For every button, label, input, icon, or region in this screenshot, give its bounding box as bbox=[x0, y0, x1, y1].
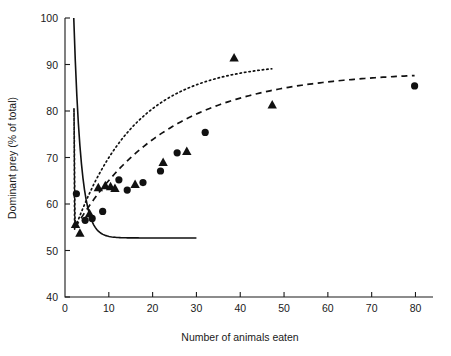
x-tick-label-10: 10 bbox=[103, 302, 115, 314]
data-point-triangle-11 bbox=[268, 100, 277, 109]
curves-group bbox=[74, 18, 415, 238]
y-tick-label-90: 90 bbox=[46, 59, 58, 71]
data-points-circles bbox=[73, 82, 418, 224]
x-axis-tick-labels: 01020304050607080 bbox=[62, 302, 421, 314]
x-tick-label-50: 50 bbox=[278, 302, 290, 314]
x-tick-label-60: 60 bbox=[322, 302, 334, 314]
x-axis-ticks bbox=[109, 292, 416, 297]
x-tick-label-40: 40 bbox=[234, 302, 246, 314]
y-tick-label-50: 50 bbox=[46, 245, 58, 257]
data-point-triangle-9 bbox=[182, 146, 191, 155]
data-point-circle-7 bbox=[157, 167, 164, 174]
x-axis-title: Number of animals eaten bbox=[181, 331, 298, 343]
y-tick-label-40: 40 bbox=[46, 291, 58, 303]
y-axis-title: Dominant prey (% of total) bbox=[6, 97, 18, 219]
axis-lines bbox=[65, 18, 433, 297]
data-point-triangle-1 bbox=[75, 228, 84, 237]
y-axis-tick-labels: 405060708090100 bbox=[40, 12, 58, 303]
data-point-triangle-10 bbox=[229, 53, 238, 62]
x-tick-label-80: 80 bbox=[410, 302, 422, 314]
solid-curve bbox=[74, 18, 197, 238]
x-tick-label-30: 30 bbox=[191, 302, 203, 314]
y-tick-label-100: 100 bbox=[40, 12, 58, 24]
axes-group: 01020304050607080 405060708090100 bbox=[40, 12, 433, 314]
data-point-circle-9 bbox=[202, 129, 209, 136]
data-point-triangle-3 bbox=[94, 183, 103, 192]
data-point-circle-10 bbox=[411, 82, 418, 89]
dashed-curve bbox=[76, 76, 415, 228]
data-point-circle-4 bbox=[115, 176, 122, 183]
data-point-circle-5 bbox=[124, 186, 131, 193]
data-point-circle-3 bbox=[99, 208, 106, 215]
scatter-plot-svg: 01020304050607080 405060708090100 Number… bbox=[0, 0, 451, 356]
y-axis-ticks bbox=[65, 18, 70, 297]
x-tick-label-70: 70 bbox=[366, 302, 378, 314]
data-point-triangle-7 bbox=[130, 179, 139, 188]
x-tick-label-20: 20 bbox=[147, 302, 159, 314]
data-point-circle-6 bbox=[139, 179, 146, 186]
data-point-triangle-0 bbox=[71, 219, 80, 228]
x-tick-label-0: 0 bbox=[62, 302, 68, 314]
data-point-triangle-8 bbox=[158, 158, 167, 167]
chart-figure: 01020304050607080 405060708090100 Number… bbox=[0, 0, 451, 356]
data-point-circle-1 bbox=[82, 217, 89, 224]
data-point-circle-8 bbox=[174, 149, 181, 156]
y-tick-label-70: 70 bbox=[46, 152, 58, 164]
y-tick-label-80: 80 bbox=[46, 105, 58, 117]
data-point-triangle-2 bbox=[85, 209, 94, 218]
dotted-curve bbox=[74, 69, 272, 230]
y-tick-label-60: 60 bbox=[46, 198, 58, 210]
data-point-circle-0 bbox=[73, 190, 80, 197]
